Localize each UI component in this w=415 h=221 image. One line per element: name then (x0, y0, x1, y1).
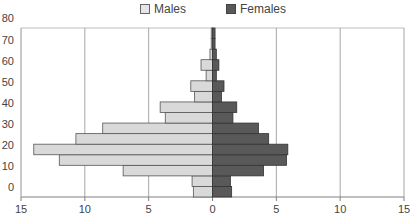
bar-females (213, 176, 231, 187)
bar-males (206, 70, 212, 81)
y-tick-label: 30 (2, 118, 14, 130)
bar-females (213, 186, 232, 197)
bar-females (213, 39, 216, 50)
y-tick-label: 0 (8, 181, 14, 193)
bar-females (213, 91, 222, 102)
x-tick-label: 10 (79, 203, 91, 215)
bar-males (160, 102, 212, 113)
bar-males (59, 155, 212, 166)
bar-males (103, 123, 213, 134)
y-tick-label: 80 (2, 12, 14, 24)
x-tick-label: 15 (15, 203, 27, 215)
bar-males (165, 113, 212, 124)
y-tick-label: 40 (2, 97, 14, 109)
x-tick-label: 5 (146, 203, 152, 215)
bar-females (213, 102, 237, 113)
bar-females (213, 113, 233, 124)
bar-females (213, 60, 219, 71)
bar-females (213, 28, 216, 39)
bar-females (213, 81, 224, 92)
bar-males (191, 81, 213, 92)
bar-females (213, 49, 217, 60)
bar-females (213, 165, 264, 176)
bar-females (213, 134, 269, 145)
x-tick-label: 0 (209, 203, 215, 215)
x-tick-label: 5 (273, 203, 279, 215)
bar-males (76, 134, 213, 145)
y-tick-label: 10 (2, 160, 14, 172)
bar-males (193, 186, 212, 197)
y-tick-label: 20 (2, 139, 14, 151)
bar-males (192, 176, 212, 187)
bar-males (34, 144, 213, 155)
x-tick-label: 10 (334, 203, 346, 215)
y-tick-label: 60 (2, 55, 14, 67)
population-pyramid-chart: 1510505101501020304050607080 (0, 0, 415, 221)
bar-females (213, 155, 287, 166)
x-tick-label: 15 (398, 203, 410, 215)
bar-females (213, 123, 259, 134)
bar-females (213, 144, 288, 155)
bar-females (213, 70, 217, 81)
bar-males (195, 91, 213, 102)
bar-males (201, 60, 212, 71)
bar-males (123, 165, 212, 176)
y-tick-label: 70 (2, 34, 14, 46)
y-tick-label: 50 (2, 76, 14, 88)
